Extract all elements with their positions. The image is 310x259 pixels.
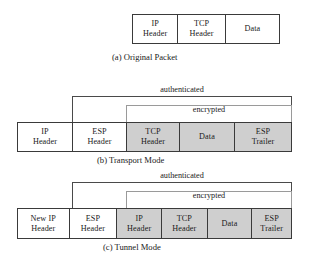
packet-field-esp-header: ESP Header [73, 123, 127, 151]
packet-field-tcp-header: TCP Header [178, 15, 225, 43]
packet-field-line1: IP [135, 214, 142, 224]
packet-field-data: Data [208, 209, 253, 238]
caption-tunnel-mode: (c) Tunnel Mode [103, 242, 223, 253]
packet-field-new-ip-header: New IP Header [18, 209, 70, 238]
span-label-encrypted-text: encrypted [193, 105, 225, 114]
packet-field-line1: TCP [145, 127, 160, 137]
span-label-encrypted-text: encrypted [193, 191, 225, 200]
packet-field-ip-header: IP Header [133, 15, 178, 43]
packet-field-line1: Data [199, 132, 215, 142]
packet-field-tcp-header: TCP Header [127, 123, 180, 151]
span-label-encrypted-tunnel: encrypted [126, 191, 292, 201]
packet-field-line2: Header [81, 224, 105, 234]
packet-field-line1: ESP [86, 214, 100, 224]
packet-row-original: IP Header TCP Header Data [132, 14, 280, 44]
caption-original-packet: (a) Original Packet [112, 52, 232, 63]
ipsec-packet-format-figure: IP Header TCP Header Data (a) Original P… [0, 0, 310, 259]
packet-field-line1: IP [151, 19, 158, 29]
packet-field-line1: ESP [92, 127, 106, 137]
packet-field-line2: Header [143, 29, 167, 39]
packet-field-ip-header: IP Header [117, 209, 162, 238]
packet-field-ip-header: IP Header [18, 123, 73, 151]
packet-field-data: Data [226, 15, 279, 43]
packet-field-line1: IP [41, 127, 48, 137]
packet-field-esp-trailer: ESP Trailer [252, 209, 291, 238]
packet-field-line2: Trailer [252, 137, 275, 147]
packet-field-line1: TCP [177, 214, 192, 224]
packet-field-line2: Header [87, 137, 111, 147]
packet-row-tunnel-mode: New IP Header ESP Header IP Header TCP H… [17, 208, 292, 239]
packet-field-line1: Data [244, 24, 260, 34]
packet-field-esp-header: ESP Header [70, 209, 118, 238]
packet-field-line2: Trailer [260, 224, 283, 234]
packet-field-line2: Header [127, 224, 151, 234]
packet-field-line2: Header [189, 29, 213, 39]
span-label-encrypted-transport: encrypted [126, 105, 292, 115]
packet-field-line2: Header [31, 224, 55, 234]
packet-field-line1: ESP [264, 214, 278, 224]
packet-field-line2: Header [141, 137, 165, 147]
packet-field-line1: ESP [256, 127, 270, 137]
packet-field-line2: Header [33, 137, 57, 147]
span-label-authenticated-tunnel: authenticated [72, 171, 292, 181]
packet-field-line2: Header [172, 224, 196, 234]
packet-field-line1: New IP [31, 214, 56, 224]
packet-field-data: Data [180, 123, 235, 151]
span-label-authenticated-transport: authenticated [72, 85, 292, 95]
caption-transport-mode: (b) Transport Mode [97, 155, 217, 166]
packet-field-line1: Data [222, 219, 238, 229]
packet-field-line1: TCP [194, 19, 209, 29]
packet-field-tcp-header: TCP Header [162, 209, 208, 238]
packet-row-transport-mode: IP Header ESP Header TCP Header Data ESP… [17, 122, 292, 152]
packet-field-esp-trailer: ESP Trailer [235, 123, 291, 151]
